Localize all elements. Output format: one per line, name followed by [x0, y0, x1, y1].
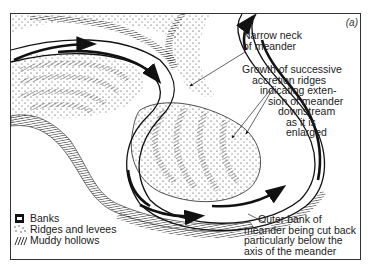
- label-line: indicating exten-: [242, 85, 343, 96]
- ridges-dots-icon: [13, 225, 27, 234]
- label-line: particularly below the: [244, 235, 356, 246]
- label-line: downstream: [242, 106, 343, 117]
- label-line: axis of the meander: [244, 246, 356, 257]
- panel-label: (a): [346, 17, 358, 28]
- label-line: Growth of successive: [242, 64, 343, 75]
- label-line: Narrow neck: [243, 30, 302, 41]
- label-line: of meander: [243, 41, 302, 52]
- legend: Banks Ridges and levees Muddy hollows: [13, 213, 116, 246]
- legend-label: Muddy hollows: [30, 235, 99, 246]
- label-narrow-neck: Narrow neck of meander: [243, 30, 302, 51]
- banks-swatch-icon: [13, 214, 27, 223]
- label-outer-bank: Outer bank of meander being cut back par…: [244, 214, 356, 256]
- label-line: Outer bank of: [244, 214, 356, 225]
- legend-item-hollows: Muddy hollows: [13, 235, 116, 246]
- label-line: enlarged: [242, 127, 343, 138]
- label-growth-ridges: Growth of successive accretion ridges in…: [242, 64, 343, 138]
- neck-dots: [173, 14, 215, 97]
- hollows-hatch-icon: [13, 236, 27, 245]
